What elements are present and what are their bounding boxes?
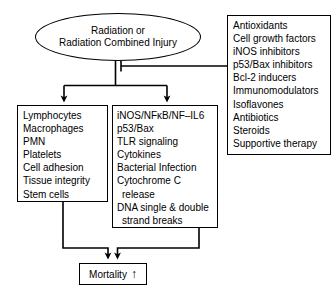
list-item: Bcl-2 inducers	[233, 71, 330, 84]
list-item: Cytokines	[117, 148, 217, 161]
list-item: Platelets	[23, 148, 107, 161]
connector-effects-to-mortality	[63, 202, 108, 256]
radiation-source-line-1: Radiation or	[91, 25, 145, 38]
list-item: p53/Bax	[117, 122, 217, 135]
radiation-source-line-2: Radiation Combined Injury	[59, 37, 177, 50]
mediators-box: iNOS/NFκB/NF–IL6 p53/Bax TLR signaling C…	[112, 105, 218, 228]
effects-list: Lymphocytes Macrophages PMN Platelets Ce…	[18, 106, 107, 201]
mortality-row: Mortality ↑	[89, 269, 137, 280]
list-item: Lymphocytes	[23, 109, 107, 122]
list-item: iNOS/NFκB/NF–IL6	[117, 109, 217, 122]
list-item: Isoflavones	[233, 98, 330, 111]
list-item: Stem cells	[23, 188, 107, 201]
connector-mediators-to-mortality	[118, 228, 200, 256]
mortality-label: Mortality	[89, 269, 127, 280]
treatments-list: Antioxidants Cell growth factors iNOS in…	[228, 16, 330, 150]
mediators-list: iNOS/NFκB/NF–IL6 p53/Bax TLR signaling C…	[113, 106, 217, 227]
list-item: TLR signaling	[117, 135, 217, 148]
list-item: DNA single & double	[117, 201, 217, 214]
effects-box: Lymphocytes Macrophages PMN Platelets Ce…	[17, 105, 108, 202]
list-item: release	[117, 188, 217, 201]
list-item: Supportive therapy	[233, 137, 330, 150]
list-item: Cell adhesion	[23, 161, 107, 174]
list-item: p53/Bax inhibitors	[233, 58, 330, 71]
list-item: PMN	[23, 135, 107, 148]
list-item: iNOS inhibitors	[233, 45, 330, 58]
treatments-box: Antioxidants Cell growth factors iNOS in…	[227, 15, 331, 155]
radiation-source-node: Radiation or Radiation Combined Injury	[35, 13, 201, 61]
list-item: Antibiotics	[233, 111, 330, 124]
mortality-box: Mortality ↑	[79, 263, 147, 285]
list-item: Antioxidants	[233, 19, 330, 32]
list-item: Bacterial Infection	[117, 161, 217, 174]
list-item: Steroids	[233, 124, 330, 137]
list-item: Cytochrome C	[117, 174, 217, 187]
up-arrow-icon: ↑	[131, 269, 137, 279]
list-item: Macrophages	[23, 122, 107, 135]
flow-diagram: Radiation or Radiation Combined Injury A…	[0, 0, 335, 297]
list-item: Cell growth factors	[233, 32, 330, 45]
list-item: Tissue integrity	[23, 174, 107, 187]
list-item: Immunomodulators	[233, 84, 330, 97]
list-item: strand breaks	[117, 214, 217, 227]
